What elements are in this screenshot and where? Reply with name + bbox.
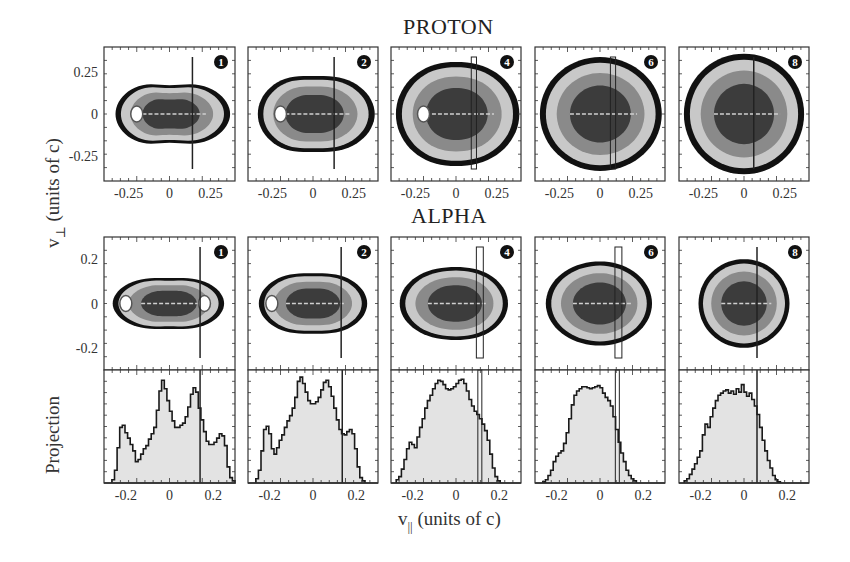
x-tick-label: 0 [453, 488, 460, 503]
contour-hole [266, 296, 278, 312]
alpha-panel-4: 4 [391, 237, 521, 370]
x-tick-label: 0.25 [198, 186, 223, 201]
proton-panel-8: 8 [679, 47, 809, 181]
projection-panel-8 [679, 370, 809, 483]
y-tick-label: 0 [91, 107, 98, 122]
x-tick-label: -0.25 [545, 186, 574, 201]
x-tick-label: 0.25 [341, 186, 366, 201]
x-tick-label: -0.25 [689, 186, 718, 201]
proton-panel-4: 4 [391, 47, 521, 181]
panel-number: 6 [648, 56, 654, 68]
x-tick-label: 0 [453, 186, 460, 201]
y-tick-label: -0.2 [76, 341, 98, 356]
x-tick-label: -0.25 [258, 186, 287, 201]
x-tick-label: 0.2 [348, 488, 366, 503]
contour-hole [418, 106, 430, 122]
contour-hole [131, 106, 143, 122]
panel-number: 2 [361, 56, 367, 68]
y-tick-label: -0.25 [69, 149, 98, 164]
x-tick-label: 0.25 [772, 186, 797, 201]
x-tick-label: -0.2 [690, 488, 712, 503]
alpha-panel-1: 1 [104, 237, 235, 370]
projection-panel-4 [391, 370, 521, 483]
figure-plots: 1-0.2500.25-0.2500.252-0.2500.254-0.2500… [0, 0, 850, 562]
x-tick-label: -0.2 [259, 488, 281, 503]
contour-hole [120, 296, 132, 312]
panel-number: 2 [361, 246, 367, 258]
proton-panel-6: 6 [535, 47, 665, 181]
x-tick-label: 0 [741, 186, 748, 201]
projection-panel-6 [535, 370, 665, 483]
contour-hole [275, 106, 287, 122]
x-tick-label: 0.2 [779, 488, 797, 503]
y-tick-label: 0.2 [81, 252, 99, 267]
x-tick-label: 0.25 [628, 186, 653, 201]
x-tick-label: 0 [310, 186, 317, 201]
proton-panel-1: 1 [104, 47, 235, 181]
alpha-panel-6: 6 [535, 237, 665, 370]
x-tick-label: 0 [166, 186, 173, 201]
panel-number: 1 [218, 246, 224, 258]
panel-number: 4 [504, 56, 510, 68]
x-tick-label: -0.2 [402, 488, 424, 503]
x-tick-label: -0.2 [546, 488, 568, 503]
x-tick-label: 0 [741, 488, 748, 503]
y-tick-label: 0.25 [74, 65, 99, 80]
y-tick-label: 0 [91, 297, 98, 312]
panel-number: 1 [218, 56, 224, 68]
panel-number: 8 [792, 246, 798, 258]
x-tick-label: 0.2 [491, 488, 509, 503]
x-tick-label: -0.25 [401, 186, 430, 201]
x-tick-label: 0.2 [635, 488, 653, 503]
projection-panel-1 [104, 370, 235, 483]
x-tick-label: 0.25 [484, 186, 509, 201]
proton-panel-2: 2 [248, 47, 378, 181]
alpha-panel-2: 2 [248, 237, 378, 370]
x-tick-label: 0 [597, 488, 604, 503]
projection-panel-2 [248, 370, 378, 483]
alpha-panel-8: 8 [679, 237, 809, 370]
x-tick-label: -0.25 [114, 186, 143, 201]
panel-number: 4 [504, 246, 510, 258]
x-tick-label: 0 [597, 186, 604, 201]
panel-number: 6 [648, 246, 654, 258]
panel-number: 8 [792, 56, 798, 68]
x-tick-label: 0.2 [204, 488, 222, 503]
x-tick-label: -0.2 [115, 488, 137, 503]
x-tick-label: 0 [310, 488, 317, 503]
x-tick-label: 0 [166, 488, 173, 503]
